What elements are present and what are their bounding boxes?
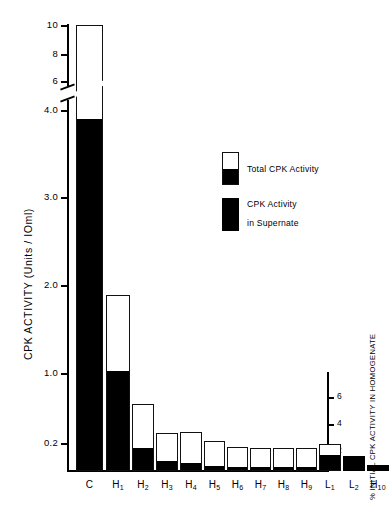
y-tick-3-0 <box>61 197 67 199</box>
x-tick-label-H8: H8 <box>273 479 294 490</box>
x-tick-label-H2: H2 <box>132 479 154 490</box>
y-right-tick-4 <box>328 424 334 426</box>
bar-H2 <box>132 404 154 471</box>
bar-H8 <box>273 448 294 471</box>
bar-L1-supernate <box>320 455 340 471</box>
y-tick-0-2 <box>61 443 67 445</box>
bar-H10 <box>367 465 389 471</box>
y-right-tick-label-4: 4 <box>337 418 342 428</box>
y-tick-label-2-0: 2.0 <box>18 279 58 290</box>
bar-H4-supernate <box>181 463 201 470</box>
x-tick-label-L2: L2 <box>343 479 365 490</box>
y-tick-label-1-0: 1.0 <box>18 367 58 378</box>
x-tick-label-H5: H5 <box>204 479 225 490</box>
bar-H8-supernate <box>274 467 293 470</box>
y-tick-6 <box>61 81 67 83</box>
legend-swatch-total-fill <box>223 169 238 185</box>
y-tick-2-0 <box>61 285 67 287</box>
x-tick-label-H3: H3 <box>156 479 178 490</box>
bar-H3-supernate <box>157 461 177 470</box>
bar-H7 <box>250 448 271 471</box>
y-right-tick-6 <box>328 397 334 399</box>
bar-H10-supernate <box>368 466 388 470</box>
bar-H6-supernate <box>228 467 247 470</box>
x-tick-label-C: C <box>76 479 103 490</box>
y-tick-label-8: 8 <box>18 48 58 59</box>
x-tick-label-H9: H9 <box>296 479 317 490</box>
y-tick-label-4-0: 4.0 <box>18 104 58 115</box>
y-right-tick-label-6: 6 <box>337 391 342 401</box>
legend-swatch-total <box>222 152 239 185</box>
y-tick-label-3-0: 3.0 <box>18 191 58 202</box>
y-axis-label: CPK ACTIVITY (Units / IOml) <box>22 150 34 360</box>
bar-H1 <box>106 295 130 471</box>
bar-L1 <box>319 444 341 471</box>
x-tick-label-H10: H10 <box>366 479 390 490</box>
x-tick-label-H1: H1 <box>106 479 130 490</box>
bar-H7-supernate <box>251 467 270 470</box>
bar-H1-supernate <box>107 371 129 470</box>
bar-H2-supernate <box>133 448 153 470</box>
legend-label-supernate-line1: CPK Activity <box>247 199 297 209</box>
x-tick-label-H7: H7 <box>250 479 271 490</box>
y-tick-4-0 <box>61 110 67 112</box>
legend-label-supernate-line2: in Supernate <box>247 218 299 228</box>
y-tick-8 <box>61 54 67 56</box>
bar-H5-supernate <box>205 466 224 470</box>
bar-L2-supernate <box>344 457 364 470</box>
bar-H3 <box>156 433 178 471</box>
chart-figure: CPK ACTIVITY (Units / IOml) % INITIAL CP… <box>0 0 391 521</box>
bar-H4 <box>180 432 202 471</box>
x-tick-label-L1: L1 <box>319 479 341 490</box>
y-tick-label-0-2: 0.2 <box>18 437 58 448</box>
legend-swatch-supernate <box>222 198 239 231</box>
bar-H5 <box>204 441 225 471</box>
y-tick-10 <box>61 25 67 27</box>
y-tick-1-0 <box>61 373 67 375</box>
y-tick-label-6: 6 <box>18 75 58 86</box>
bar-H9 <box>296 448 317 471</box>
bar-L2 <box>343 456 365 471</box>
x-tick-label-H4: H4 <box>180 479 202 490</box>
x-tick-label-H6: H6 <box>227 479 248 490</box>
bar-C-supernate <box>77 119 102 470</box>
bar-H9-supernate <box>297 467 316 470</box>
legend-label-total: Total CPK Activity <box>247 164 319 174</box>
bar-H6 <box>227 447 248 471</box>
y-tick-label-10: 10 <box>18 19 58 30</box>
